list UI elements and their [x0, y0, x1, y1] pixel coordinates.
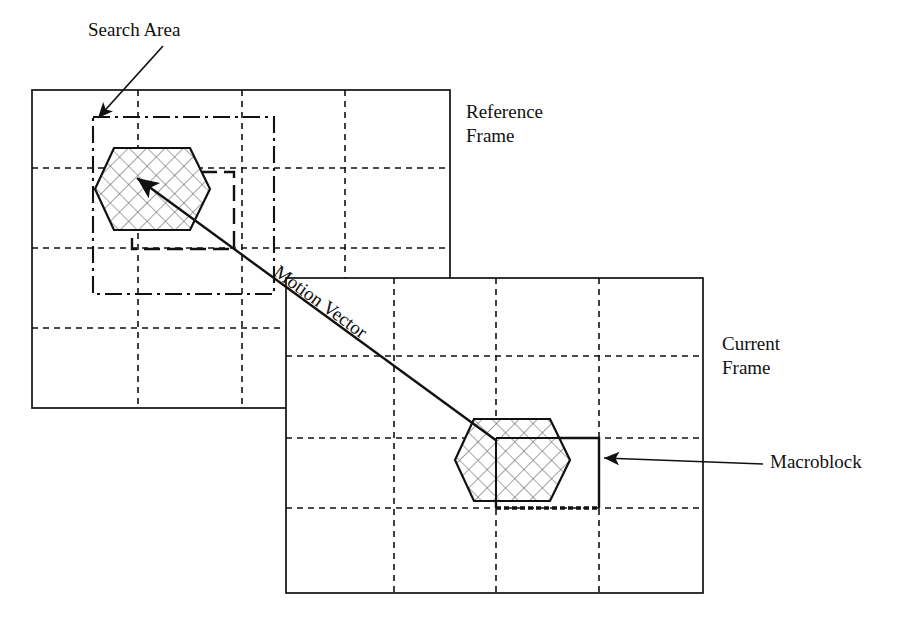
label-search-area: Search Area [88, 18, 180, 42]
figure-canvas: Search Area Reference Frame Current Fram… [0, 0, 914, 629]
label-current-frame: Current Frame [722, 332, 780, 381]
label-macroblock: Macroblock [770, 450, 862, 474]
current-hexagon-outline [455, 419, 570, 501]
motion-estimation-diagram [0, 0, 914, 629]
current-hexagon [455, 419, 570, 501]
label-reference-frame: Reference Frame [466, 100, 543, 149]
